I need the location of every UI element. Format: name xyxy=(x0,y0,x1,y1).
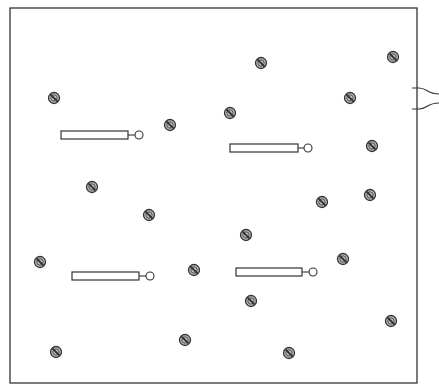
screw-icon xyxy=(225,108,236,119)
screw-icon xyxy=(144,210,155,221)
screw-icon xyxy=(367,141,378,152)
screw-icon xyxy=(365,190,376,201)
screw-icon xyxy=(317,197,328,208)
panel-outline xyxy=(10,8,417,383)
screw-icon xyxy=(284,348,295,359)
probe xyxy=(230,144,312,152)
screw-icon xyxy=(256,58,267,69)
screw-icon xyxy=(388,52,399,63)
screw-icon xyxy=(241,230,252,241)
panel-diagram xyxy=(0,0,439,389)
probe xyxy=(72,272,154,280)
probe xyxy=(236,268,317,276)
cable-exit xyxy=(412,88,439,109)
screw-icon xyxy=(246,296,257,307)
probe-tip-icon xyxy=(304,144,312,152)
screw-icon xyxy=(49,93,60,104)
screw-icon xyxy=(386,316,397,327)
screw-icon xyxy=(87,182,98,193)
screw-icon xyxy=(180,335,191,346)
screw-icon xyxy=(35,257,46,268)
cable-lower-wire xyxy=(412,103,439,109)
probe-tip-icon xyxy=(309,268,317,276)
screw-icon xyxy=(345,93,356,104)
screw-icon xyxy=(189,265,200,276)
screw-icon xyxy=(338,254,349,265)
screw-icon xyxy=(51,347,62,358)
probe-body xyxy=(72,272,139,280)
screws-group xyxy=(35,52,399,359)
probes-group xyxy=(61,131,317,280)
probe-body xyxy=(230,144,298,152)
probe xyxy=(61,131,143,139)
screw-icon xyxy=(165,120,176,131)
probe-body xyxy=(61,131,128,139)
probe-body xyxy=(236,268,302,276)
cable-upper-wire xyxy=(412,88,439,94)
probe-tip-icon xyxy=(146,272,154,280)
probe-tip-icon xyxy=(135,131,143,139)
